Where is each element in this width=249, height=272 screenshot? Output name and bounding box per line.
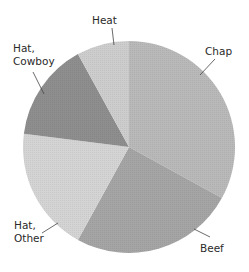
- leader-line-beef: [194, 229, 210, 237]
- pie-slices: [23, 41, 235, 253]
- label-hat-other-1: Hat,: [14, 219, 36, 231]
- leader-line-chap: [200, 59, 215, 75]
- label-beef: Beef: [200, 242, 224, 254]
- pie-chart: Heat Chap Hat, Cowboy Hat, Other Beef: [0, 0, 249, 272]
- label-heat: Heat: [92, 14, 117, 26]
- label-hat-cowboy-1: Hat,: [13, 42, 35, 54]
- label-hat-other-2: Other: [14, 232, 44, 244]
- label-hat-cowboy-2: Cowboy: [13, 55, 55, 67]
- leader-line-hat-cowboy: [33, 72, 44, 94]
- label-chap: Chap: [205, 45, 232, 57]
- leader-line-hat-other: [42, 223, 58, 233]
